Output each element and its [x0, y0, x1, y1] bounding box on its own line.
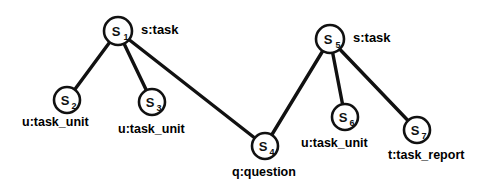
node-s7[interactable]: S 7 [404, 117, 430, 143]
node-label-s6: u:task_unit [301, 136, 368, 150]
node-s5-subscript: 5 [335, 40, 340, 50]
node-s6[interactable]: S 6 [332, 104, 358, 130]
node-s7-subscript: 7 [421, 131, 426, 141]
node-s2-glyph: S [61, 93, 70, 108]
node-label-s2: u:task_unit [22, 115, 89, 129]
node-s1[interactable]: S 1 [104, 17, 132, 45]
node-s4-glyph: S [259, 139, 268, 154]
node-s6-glyph: S [339, 110, 348, 125]
edge-s5-s4 [265, 39, 330, 146]
node-s7-glyph: S [411, 123, 420, 138]
node-s5[interactable]: S 5 [316, 25, 344, 53]
node-s1-subscript: 1 [123, 32, 128, 42]
node-s3[interactable]: S 3 [139, 89, 165, 115]
node-label-s7: t:task_report [388, 148, 464, 162]
node-s2[interactable]: S 2 [54, 87, 80, 113]
node-label-s5: s:task [353, 30, 391, 45]
node-s1-glyph: S [112, 24, 121, 39]
graph-diagram: S 1 S 2 S 3 S 4 S 5 [0, 0, 500, 188]
node-s3-glyph: S [146, 95, 155, 110]
node-s2-subscript: 2 [71, 101, 76, 111]
node-label-s4: q:question [232, 165, 296, 179]
node-s4-subscript: 4 [269, 147, 274, 157]
node-s4[interactable]: S 4 [252, 133, 278, 159]
node-label-s1: s:task [141, 22, 179, 37]
node-s3-subscript: 3 [156, 103, 161, 113]
node-s6-subscript: 6 [349, 118, 354, 128]
node-label-s3: u:task_unit [118, 122, 185, 136]
node-s5-glyph: S [324, 32, 333, 47]
